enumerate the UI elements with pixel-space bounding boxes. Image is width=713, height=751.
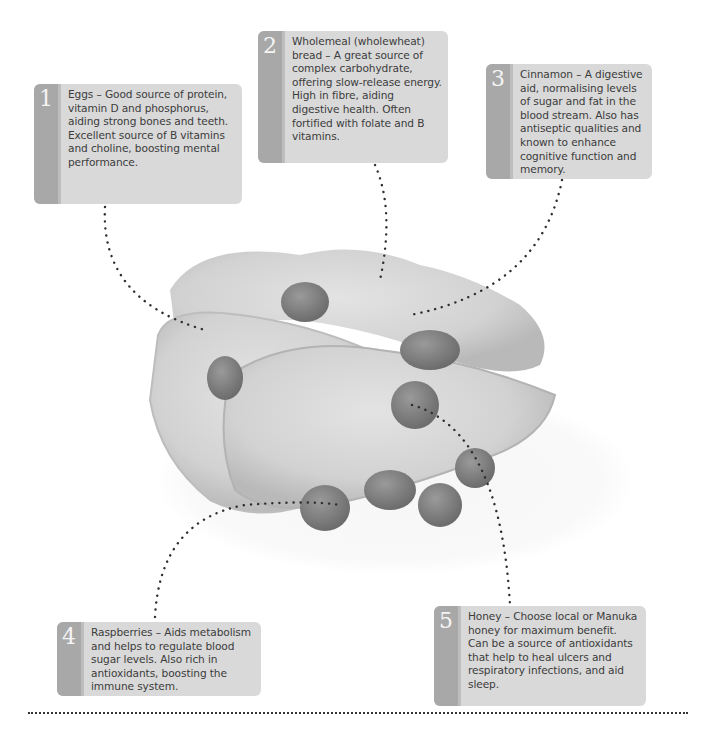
callout-text: Raspberries – Aids metabolism and helps … [84, 622, 261, 696]
number-badge: 5 [434, 606, 461, 706]
number-badge: 2 [258, 31, 285, 163]
callout-number: 1 [34, 86, 58, 112]
callout-honey: 5 Honey – Choose local or Manuka honey f… [434, 606, 646, 706]
callout-text: Eggs – Good source of protein, vitamin D… [61, 84, 242, 204]
callout-wholemeal-bread: 2 Wholemeal (wholewheat) bread – A great… [258, 31, 448, 163]
callout-text: Wholemeal (wholewheat) bread – A great s… [285, 31, 448, 163]
number-badge: 3 [486, 64, 513, 179]
callout-raspberries: 4 Raspberries – Aids metabolism and help… [57, 622, 261, 696]
callout-eggs: 1 Eggs – Good source of protein, vitamin… [34, 84, 242, 204]
dotted-divider [28, 712, 688, 714]
number-badge: 1 [34, 84, 61, 204]
callout-text: Honey – Choose local or Manuka honey for… [461, 606, 646, 706]
callout-cinnamon: 3 Cinnamon – A digestive aid, normalisin… [486, 64, 652, 179]
callout-number: 5 [434, 608, 458, 634]
number-badge: 4 [57, 622, 84, 696]
callout-text: Cinnamon – A digestive aid, normalising … [513, 64, 652, 179]
callout-number: 3 [486, 66, 510, 92]
callout-number: 2 [258, 33, 282, 59]
callout-number: 4 [57, 624, 81, 650]
